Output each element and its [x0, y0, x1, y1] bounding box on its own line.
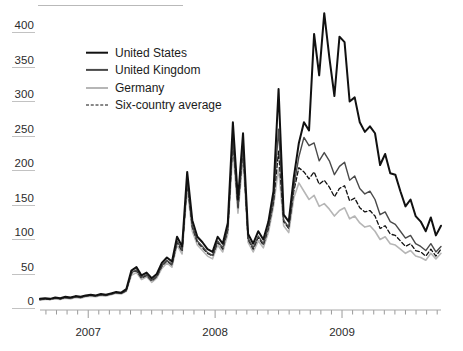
- legend-item[interactable]: Six-country average: [86, 97, 276, 115]
- y-tick-rule: [12, 205, 35, 206]
- y-tick-label: 200: [2, 157, 34, 169]
- legend-label: United Kingdom: [115, 63, 200, 77]
- x-tick-label: 2007: [58, 326, 118, 338]
- legend-item[interactable]: United Kingdom: [86, 62, 276, 80]
- y-tick-rule: [12, 101, 35, 102]
- legend-item[interactable]: Germany: [86, 79, 276, 97]
- y-tick-rule: [12, 239, 35, 240]
- y-tick-rule: [12, 32, 35, 33]
- legend-item[interactable]: United States: [86, 44, 276, 62]
- y-tick-label: 300: [2, 88, 34, 100]
- y-tick-label: 50: [2, 261, 34, 273]
- y-tick-rule: [12, 308, 35, 309]
- y-tick-label: 350: [2, 54, 34, 66]
- y-tick-label: 400: [2, 19, 34, 31]
- x-minor-ticks: [46, 310, 437, 318]
- legend-line-icon: [86, 100, 108, 111]
- legend-label: Germany: [115, 81, 164, 95]
- y-tick-label: 250: [2, 123, 34, 135]
- x-tick-label: 2009: [312, 326, 372, 338]
- y-tick-label: 100: [2, 226, 34, 238]
- legend-line-icon: [86, 82, 108, 93]
- y-tick-rule: [12, 136, 35, 137]
- y-tick-rule: [12, 67, 35, 68]
- y-tick-rule: [12, 170, 35, 171]
- y-tick-rule: [12, 274, 35, 275]
- legend-label: United States: [115, 46, 187, 60]
- y-tick-label: 0: [2, 295, 34, 307]
- x-tick-label: 2008: [185, 326, 245, 338]
- legend-line-icon: [86, 65, 108, 76]
- chart-figure: 400350300250200150100500 200720082009 Un…: [0, 0, 463, 351]
- chart-legend: United StatesUnited KingdomGermanySix-co…: [86, 44, 276, 114]
- y-tick-label: 150: [2, 192, 34, 204]
- legend-line-icon: [86, 47, 108, 58]
- legend-label: Six-country average: [115, 98, 222, 112]
- top-rule-divider: [38, 5, 183, 6]
